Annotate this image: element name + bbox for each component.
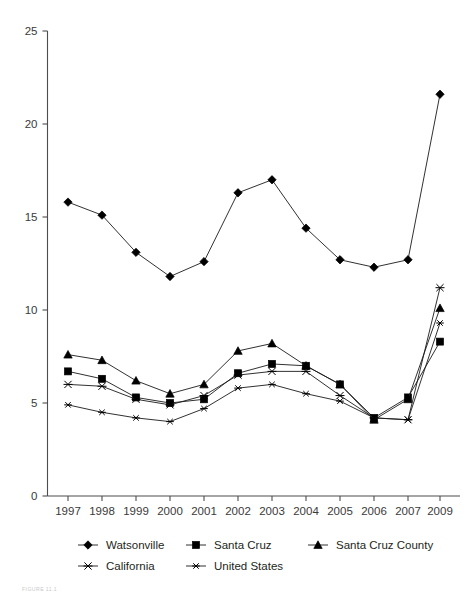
x-tick-label: 2001 (191, 505, 217, 517)
x-tick-label: 2000 (157, 505, 183, 517)
x-tick-label: 2009 (427, 505, 453, 517)
data-point-marker (65, 368, 72, 375)
y-tick-label: 20 (25, 118, 38, 130)
unemployment-rate-line-chart: 0510152025 19971998199920002001200220032… (0, 0, 471, 599)
y-tick-label: 5 (31, 397, 37, 409)
data-point-marker (269, 360, 276, 367)
data-point-marker (193, 542, 200, 549)
x-tick-label: 1999 (123, 505, 149, 517)
x-tick-label: 2006 (361, 505, 387, 517)
x-tick-label: 2004 (293, 505, 319, 517)
legend-label: Santa Cruz County (336, 539, 433, 551)
y-tick-label: 10 (25, 304, 38, 316)
y-tick-label: 25 (25, 25, 38, 37)
x-tick-label: 1997 (55, 505, 81, 517)
legend-label: United States (214, 560, 283, 572)
x-tick-label: 2007 (395, 505, 421, 517)
data-point-marker (99, 375, 106, 382)
data-point-marker (437, 338, 444, 345)
legend-label: Watsonville (106, 539, 164, 551)
x-tick-label: 2005 (327, 505, 353, 517)
y-tick-label: 0 (31, 490, 37, 502)
data-point-marker (201, 396, 208, 403)
legend-label: Santa Cruz (214, 539, 272, 551)
x-tick-label: 1998 (89, 505, 115, 517)
x-tick-label: 2002 (225, 505, 251, 517)
x-tick-label: 2003 (259, 505, 285, 517)
figure-root: 0510152025 19971998199920002001200220032… (0, 0, 471, 599)
y-tick-label: 15 (25, 211, 38, 223)
legend-label: California (106, 560, 155, 572)
figure-caption: FIGURE 11.1 (22, 586, 57, 592)
